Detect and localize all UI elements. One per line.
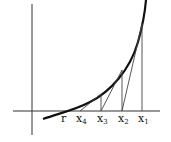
label-x2: x2: [118, 112, 129, 126]
label-x1: x1: [138, 112, 149, 126]
tangent-at-x1: [122, 24, 142, 111]
newton-method-diagram: r x4 x3 x2 x1: [0, 0, 171, 142]
label-r: r: [61, 112, 67, 125]
label-x3: x3: [97, 112, 108, 126]
tangent-at-x2: [101, 70, 122, 111]
label-x4: x4: [76, 112, 87, 126]
function-curve: [43, 0, 146, 119]
tangent-at-x3: [80, 94, 101, 111]
